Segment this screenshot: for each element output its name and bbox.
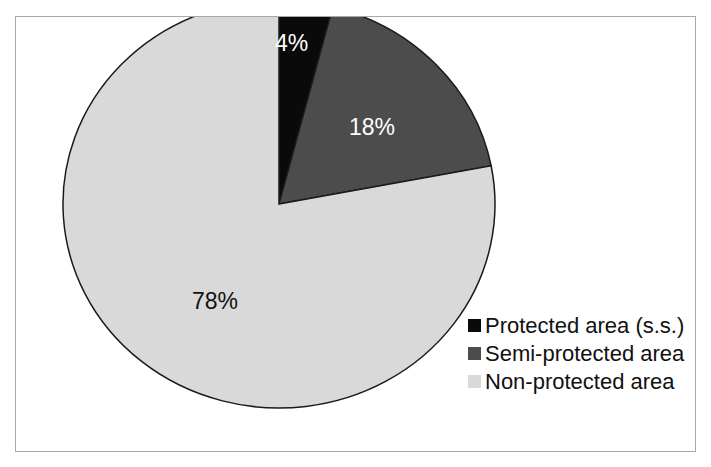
chart-legend: Protected area (s.s.) Semi-protected are…: [468, 313, 684, 394]
legend-swatch-icon-protected: [468, 319, 481, 332]
pie-slice-label-protected: 4%: [275, 30, 308, 57]
legend-item-protected[interactable]: Protected area (s.s.): [468, 313, 684, 338]
legend-label-semi-protected: Semi-protected area: [485, 343, 684, 365]
chart-frame: 4% 18% 78% Protected area (s.s.) Semi-pr…: [15, 16, 696, 452]
legend-item-semi-protected[interactable]: Semi-protected area: [468, 341, 684, 366]
pie-chart-graphic: [62, 16, 496, 409]
legend-label-protected: Protected area (s.s.): [485, 315, 684, 337]
legend-label-non-protected: Non-protected area: [485, 371, 675, 393]
legend-item-non-protected[interactable]: Non-protected area: [468, 369, 684, 394]
pie-slice-label-non-protected: 78%: [192, 288, 238, 315]
pie-slice-label-semi-protected: 18%: [349, 114, 395, 141]
pie-chart-plot-area: 4% 18% 78% Protected area (s.s.) Semi-pr…: [16, 17, 696, 452]
legend-swatch-icon-non-protected: [468, 375, 481, 388]
legend-swatch-icon-semi-protected: [468, 347, 481, 360]
